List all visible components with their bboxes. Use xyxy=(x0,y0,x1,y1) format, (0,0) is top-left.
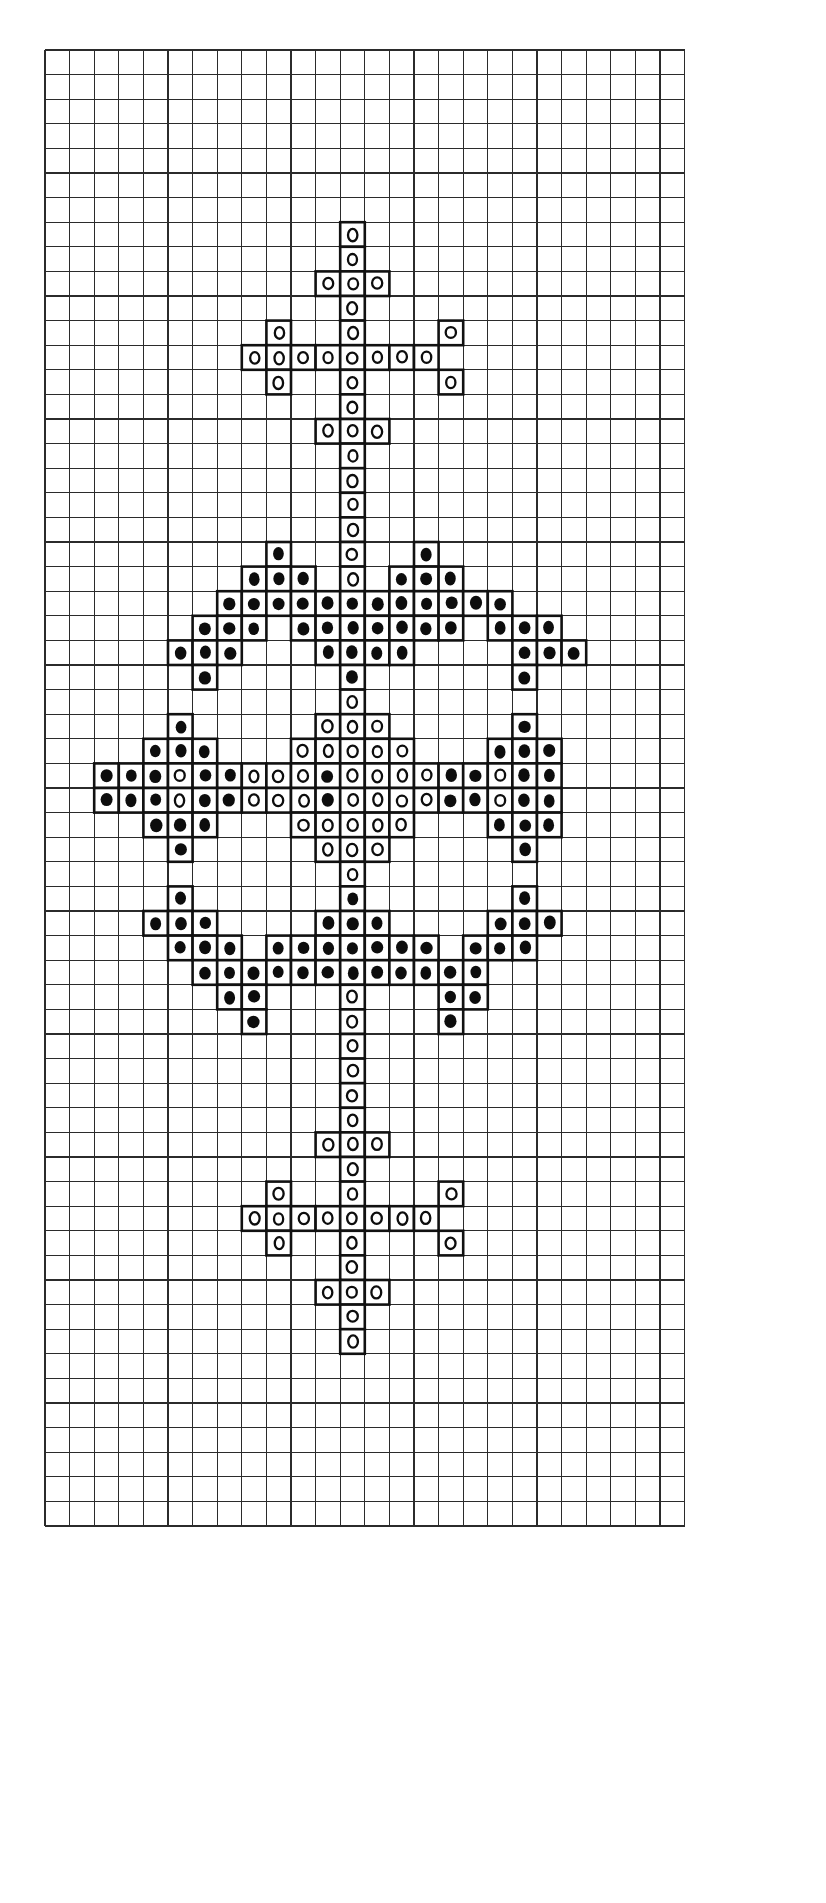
filled-circle-icon xyxy=(322,966,334,978)
filled-circle-icon xyxy=(395,967,407,980)
open-circle-icon xyxy=(347,1287,357,1298)
filled-circle-icon xyxy=(223,622,235,634)
open-circle-icon xyxy=(175,770,185,781)
filled-circle-icon xyxy=(224,647,236,660)
filled-circle-icon xyxy=(223,597,235,610)
filled-circle-icon xyxy=(420,966,431,979)
open-circle-icon xyxy=(373,352,382,363)
open-circle-icon xyxy=(347,475,357,487)
filled-circle-icon xyxy=(224,967,235,979)
open-circle-icon xyxy=(348,425,358,436)
filled-circle-icon xyxy=(322,793,334,807)
open-circle-icon xyxy=(250,1212,260,1224)
filled-circle-icon xyxy=(396,941,408,954)
filled-circle-icon xyxy=(420,622,431,635)
filled-circle-icon xyxy=(519,917,531,930)
filled-circle-icon xyxy=(543,744,555,757)
filled-circle-icon xyxy=(322,596,334,609)
open-circle-icon xyxy=(249,794,259,805)
filled-circle-icon xyxy=(175,917,187,930)
filled-circle-icon xyxy=(248,598,260,610)
open-circle-icon xyxy=(348,377,358,388)
open-circle-icon xyxy=(347,402,357,413)
filled-circle-icon xyxy=(494,818,505,831)
open-circle-icon xyxy=(397,351,407,362)
filled-circle-icon xyxy=(199,671,211,684)
open-circle-icon xyxy=(348,327,358,339)
filled-circle-icon xyxy=(372,597,384,611)
filled-circle-icon xyxy=(519,842,531,856)
filled-circle-icon xyxy=(101,769,113,782)
filled-circle-icon xyxy=(323,645,334,659)
filled-circle-icon xyxy=(175,646,187,659)
open-circle-icon xyxy=(347,1213,356,1225)
open-circle-icon xyxy=(348,254,357,265)
filled-circle-icon xyxy=(175,941,186,954)
open-circle-icon xyxy=(298,820,308,831)
cross-stitch-chart xyxy=(43,48,687,1528)
filled-circle-icon xyxy=(200,917,211,929)
filled-circle-icon xyxy=(446,768,457,782)
open-circle-icon xyxy=(495,795,505,806)
open-circle-icon xyxy=(273,377,283,389)
filled-circle-icon xyxy=(248,622,259,635)
open-circle-icon xyxy=(274,352,283,364)
filled-circle-icon xyxy=(149,770,161,783)
filled-circle-icon xyxy=(225,769,236,782)
filled-circle-icon xyxy=(420,942,432,954)
open-circle-icon xyxy=(348,1115,357,1127)
filled-circle-icon xyxy=(371,646,382,660)
filled-circle-icon xyxy=(444,966,456,979)
filled-circle-icon xyxy=(273,942,284,955)
filled-circle-icon xyxy=(347,942,358,954)
open-circle-icon xyxy=(347,1237,356,1249)
open-circle-icon xyxy=(299,1213,309,1224)
filled-circle-icon xyxy=(297,622,309,635)
filled-circle-icon xyxy=(224,991,235,1005)
filled-circle-icon xyxy=(445,621,457,634)
filled-circle-icon xyxy=(371,941,383,953)
filled-circle-icon xyxy=(495,621,506,635)
filled-circle-icon xyxy=(397,646,408,660)
filled-circle-icon xyxy=(224,942,235,955)
filled-circle-icon xyxy=(200,769,212,781)
open-circle-icon xyxy=(273,1188,283,1200)
open-circle-icon xyxy=(348,721,357,733)
filled-circle-icon xyxy=(346,670,358,684)
filled-circle-icon xyxy=(176,721,187,734)
filled-circle-icon xyxy=(420,572,432,585)
filled-circle-icon xyxy=(396,596,408,610)
filled-circle-icon xyxy=(273,547,284,560)
open-circle-icon xyxy=(396,819,405,830)
open-circle-icon xyxy=(347,302,357,314)
filled-circle-icon xyxy=(347,597,358,609)
open-circle-icon xyxy=(298,352,308,363)
filled-circle-icon xyxy=(494,598,506,611)
open-circle-icon xyxy=(495,770,505,781)
filled-circle-icon xyxy=(520,941,531,955)
filled-circle-icon xyxy=(568,647,580,660)
filled-circle-icon xyxy=(248,990,260,1002)
open-circle-icon xyxy=(347,1261,357,1273)
filled-circle-icon xyxy=(199,967,211,980)
filled-circle-icon xyxy=(470,942,482,954)
open-circle-icon xyxy=(347,769,357,781)
filled-circle-icon xyxy=(543,621,554,634)
filled-circle-icon xyxy=(347,892,358,905)
filled-circle-icon xyxy=(421,548,432,562)
open-circle-icon xyxy=(372,721,382,732)
filled-circle-icon xyxy=(273,966,284,978)
filled-circle-icon xyxy=(396,573,407,585)
open-circle-icon xyxy=(347,549,357,560)
filled-circle-icon xyxy=(544,769,555,782)
filled-circle-icon xyxy=(543,818,554,832)
filled-circle-icon xyxy=(125,793,136,807)
filled-circle-icon xyxy=(347,917,359,930)
filled-circle-icon xyxy=(348,966,359,980)
filled-circle-icon xyxy=(323,942,334,955)
open-circle-icon xyxy=(275,1237,284,1249)
filled-circle-icon xyxy=(322,621,333,634)
filled-circle-icon xyxy=(199,818,210,832)
open-circle-icon xyxy=(347,1311,357,1322)
filled-circle-icon xyxy=(297,598,309,610)
